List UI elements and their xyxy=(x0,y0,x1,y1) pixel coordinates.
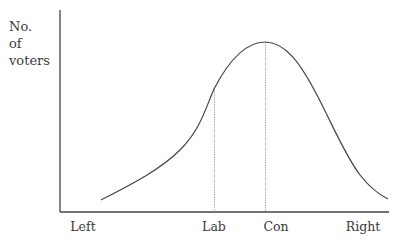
x-tick-left: Left xyxy=(70,219,95,234)
voter-distribution-chart xyxy=(0,0,410,243)
y-axis-label-line3: voters xyxy=(9,52,50,69)
x-tick-con: Con xyxy=(263,219,288,234)
y-axis-label: No. of voters xyxy=(9,18,50,69)
x-tick-lab: Lab xyxy=(202,219,226,234)
voter-distribution-curve xyxy=(101,42,388,200)
y-axis-label-line2: of xyxy=(9,35,50,52)
x-tick-right: Right xyxy=(346,219,381,234)
y-axis-label-line1: No. xyxy=(9,18,50,35)
